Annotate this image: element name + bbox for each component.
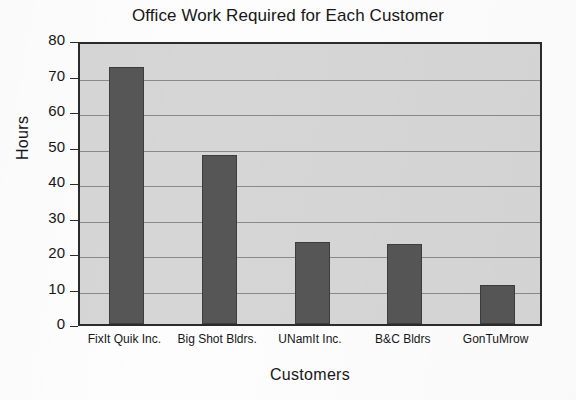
x-axis: FixIt Quik Inc.Big Shot Bldrs.UNamIt Inc… xyxy=(78,332,542,354)
x-axis-tick-label: Big Shot Bldrs. xyxy=(178,332,257,346)
y-axis-tick-mark xyxy=(70,42,78,43)
bar-chart-figure: Office Work Required for Each Customer H… xyxy=(0,0,576,400)
y-axis-tick-label: 40 xyxy=(48,173,65,190)
chart-title: Office Work Required for Each Customer xyxy=(0,6,576,26)
x-axis-tick-label: B&C Bldrs xyxy=(375,332,430,346)
y-axis-tick-mark xyxy=(70,220,78,221)
y-axis-tick-label: 10 xyxy=(48,280,65,297)
x-axis-tick-label: FixIt Quik Inc. xyxy=(88,332,161,346)
y-axis-tick-label: 30 xyxy=(48,209,65,226)
x-axis-tick-label: UNamIt Inc. xyxy=(278,332,341,346)
bar xyxy=(202,155,237,324)
bars-layer xyxy=(80,44,540,324)
y-axis: 01020304050607080 xyxy=(0,0,78,400)
plot-area xyxy=(78,42,542,326)
y-axis-tick-label: 60 xyxy=(48,102,65,119)
y-axis-tick-mark xyxy=(70,184,78,185)
bar xyxy=(480,285,515,324)
x-axis-title: Customers xyxy=(78,366,542,384)
y-axis-tick-label: 20 xyxy=(48,244,65,261)
y-axis-tick-mark xyxy=(70,255,78,256)
y-axis-tick-label: 50 xyxy=(48,138,65,155)
y-axis-tick-mark xyxy=(70,78,78,79)
bar xyxy=(295,242,330,324)
bar xyxy=(387,244,422,324)
y-axis-tick-mark xyxy=(70,291,78,292)
bar xyxy=(109,67,144,324)
y-axis-tick-label: 80 xyxy=(48,31,65,48)
y-axis-tick-mark xyxy=(70,149,78,150)
y-axis-tick-label: 0 xyxy=(57,315,65,332)
x-axis-tick-label: GonTuMrow xyxy=(463,332,529,346)
y-axis-tick-label: 70 xyxy=(48,67,65,84)
y-axis-tick-mark xyxy=(70,113,78,114)
y-axis-tick-mark xyxy=(70,326,78,327)
